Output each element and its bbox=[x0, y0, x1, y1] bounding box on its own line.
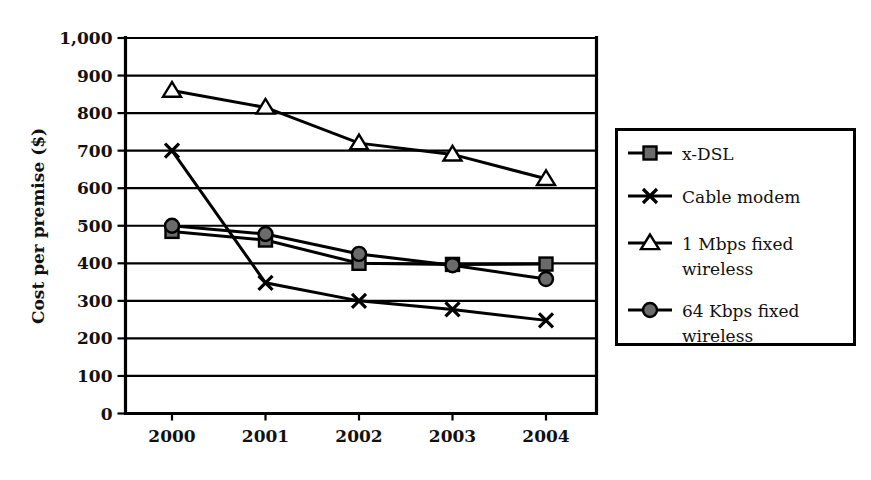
legend-label: Cable modem bbox=[682, 187, 800, 207]
y-tick-label: 0 bbox=[101, 404, 113, 424]
legend-label-line2: wireless bbox=[682, 259, 753, 279]
marker-circle bbox=[259, 227, 273, 241]
data-series bbox=[165, 219, 553, 286]
marker-circle bbox=[539, 272, 553, 286]
marker-square bbox=[644, 147, 657, 160]
chart-canvas: Cost per premise ($) 1,00090080070060050… bbox=[0, 0, 871, 480]
y-tick-label: 100 bbox=[77, 366, 113, 386]
y-tick-label: 800 bbox=[77, 103, 113, 123]
legend-label: 1 Mbps fixed bbox=[682, 234, 794, 254]
y-tick-label: 200 bbox=[77, 328, 113, 348]
y-tick-label: 300 bbox=[77, 291, 113, 311]
x-tick-label: 2004 bbox=[522, 426, 569, 446]
x-tick-label: 2000 bbox=[148, 426, 195, 446]
legend-label: x-DSL bbox=[682, 144, 734, 164]
marker-circle bbox=[446, 258, 460, 272]
y-axis-tick-labels: 1,0009008007006005004003002001000 bbox=[59, 28, 112, 424]
y-tick-label: 600 bbox=[77, 178, 113, 198]
marker-circle bbox=[643, 303, 657, 317]
x-tick-label: 2003 bbox=[429, 426, 476, 446]
x-tick-label: 2002 bbox=[335, 426, 382, 446]
data-series bbox=[163, 82, 555, 185]
chart-figure: Cost per premise ($) 1,00090080070060050… bbox=[0, 0, 871, 480]
marker-square bbox=[540, 258, 553, 271]
marker-circle bbox=[165, 219, 179, 233]
legend-label-line2: wireless bbox=[682, 326, 753, 346]
gridlines bbox=[126, 38, 597, 376]
y-tick-label: 700 bbox=[77, 141, 113, 161]
x-tick-label: 2001 bbox=[242, 426, 289, 446]
y-axis-title: Cost per premise ($) bbox=[28, 128, 48, 324]
y-tick-label: 500 bbox=[77, 216, 113, 236]
y-tick-label: 900 bbox=[77, 66, 113, 86]
legend-label: 64 Kbps fixed bbox=[682, 301, 800, 321]
x-axis-tick-labels: 20002001200220032004 bbox=[148, 426, 569, 446]
marker-circle bbox=[352, 247, 366, 261]
y-tick-label: 1,000 bbox=[59, 28, 112, 48]
data-series-layer bbox=[163, 82, 555, 327]
marker-triangle bbox=[163, 82, 181, 97]
y-tick-label: 400 bbox=[77, 253, 113, 273]
